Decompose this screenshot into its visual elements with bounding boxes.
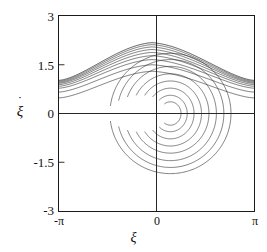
y-tick-label-m1p5: -1.5: [8, 156, 54, 169]
y-tick-label-3: 3: [8, 10, 54, 23]
phase-portrait-figure: 3 1.5 0 -1.5 -3 -π 0 π ξ ˙ ξ: [0, 0, 267, 252]
x-tick-label-neg-pi: -π: [48, 215, 70, 227]
trajectory-plot: [59, 16, 254, 211]
x-tick-label-zero: 0: [146, 215, 168, 227]
y-axis-label-symbol: ξ: [9, 104, 31, 119]
x-axis-label: ξ: [0, 231, 267, 245]
x-tick-label-pi: π: [245, 215, 265, 227]
y-tick-label-1p5: 1.5: [8, 59, 54, 72]
plot-area: [58, 15, 255, 212]
y-axis-label: ˙ ξ: [9, 98, 31, 119]
